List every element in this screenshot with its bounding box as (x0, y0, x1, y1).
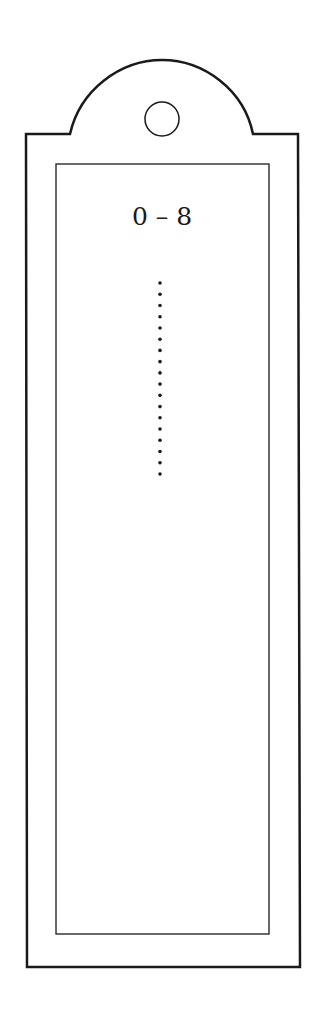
outer-frame (26, 60, 300, 967)
dot (158, 371, 162, 375)
dot (158, 416, 162, 420)
dot (158, 394, 162, 398)
dot (158, 461, 162, 465)
dot (158, 337, 162, 341)
dot (158, 405, 162, 409)
dot (158, 304, 162, 308)
dot (158, 450, 162, 454)
dot (158, 427, 162, 431)
dot (158, 349, 162, 353)
dot (158, 281, 162, 285)
dot (158, 292, 162, 296)
dot (158, 382, 162, 386)
dot (158, 438, 162, 442)
dot (158, 326, 162, 330)
range-label: 0 – 8 (55, 200, 269, 234)
dot (158, 360, 162, 364)
dot (158, 315, 162, 319)
bookmark-outline (0, 0, 328, 1034)
dot (158, 472, 162, 476)
